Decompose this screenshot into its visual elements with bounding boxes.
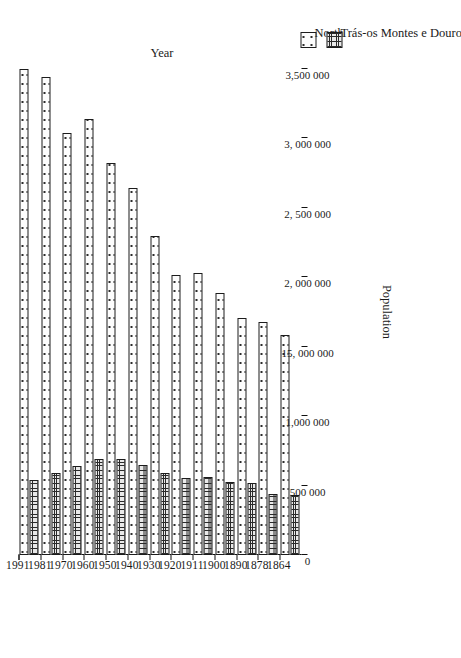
value-tick-label: 500 000 <box>289 486 325 498</box>
bar-tmd-1970 <box>72 466 81 555</box>
bar-north-1878 <box>258 322 267 555</box>
bar-tmd-1878 <box>268 494 277 555</box>
bar-tmd-1920 <box>181 478 190 555</box>
bar-north-1981 <box>41 77 50 555</box>
category-tick-label: 1878 <box>245 559 268 571</box>
bar-north-1890 <box>237 318 246 555</box>
category-tick-label: 1890 <box>223 559 246 571</box>
bar-tmd-1940 <box>138 465 147 555</box>
value-tick-label: 1,000 000 <box>285 416 329 428</box>
value-tick-label: 2, 500 000 <box>284 208 331 220</box>
bar-north-1920 <box>171 275 180 555</box>
bar-north-1950 <box>106 163 115 555</box>
category-tick-label: 1981 <box>27 559 50 571</box>
category-tick-label: 1911 <box>180 559 203 571</box>
bar-tmd-1950 <box>116 459 125 555</box>
bar-north-1900 <box>215 293 224 555</box>
value-tick-label: 3, 000 000 <box>284 138 331 150</box>
bar-tmd-1981 <box>51 473 60 555</box>
category-tick-label: 1970 <box>49 559 72 571</box>
category-tick-label: 1940 <box>114 559 137 571</box>
plot-area: 1864187818901900191119201930194019501960… <box>18 69 301 555</box>
legend-item-label: Trás-os Montes e Douro <box>340 26 461 41</box>
bar-tmd-1930 <box>160 473 169 555</box>
value-tick-label: 0 <box>304 555 310 567</box>
bar-tmd-1864 <box>290 495 299 555</box>
category-tick-label: 1930 <box>136 559 159 571</box>
bar-north-1864 <box>280 335 289 555</box>
bar-tmd-1960 <box>94 459 103 555</box>
bar-north-1930 <box>150 236 159 555</box>
bar-tmd-1900 <box>225 482 234 555</box>
category-tick-label: 1900 <box>201 559 224 571</box>
bar-north-1911 <box>193 273 202 555</box>
bar-north-1940 <box>128 188 137 555</box>
category-tick-label: 1864 <box>267 559 290 571</box>
bar-north-1970 <box>62 133 71 555</box>
bar-north-1991 <box>19 69 28 555</box>
category-tick-label: 1960 <box>71 559 94 571</box>
value-tick-label: 15, 000 000 <box>281 347 333 359</box>
category-tick <box>18 555 19 560</box>
bar-tmd-1911 <box>203 477 212 555</box>
category-tick-label: 1950 <box>93 559 116 571</box>
category-axis-title: Year <box>150 46 173 61</box>
value-tick-label: 3,500 000 <box>285 69 329 81</box>
category-tick-label: 1920 <box>158 559 181 571</box>
value-tick-label: 2, 000 000 <box>284 277 331 289</box>
bar-tmd-1890 <box>247 484 256 556</box>
bar-north-1960 <box>84 119 93 555</box>
value-axis-title: Population <box>378 69 393 555</box>
bar-tmd-1991 <box>29 480 38 555</box>
category-tick-label: 1991 <box>5 559 28 571</box>
